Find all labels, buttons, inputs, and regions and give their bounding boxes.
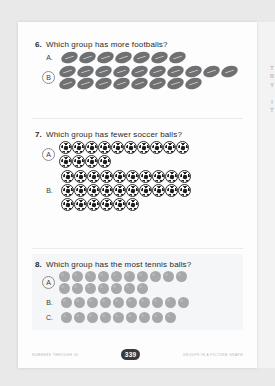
soccer-ball-icon [87,198,100,211]
tennis-ball-icon [87,312,98,323]
tennis-ball-icon [113,297,124,308]
soccer-ball-icon [137,141,150,154]
soccer-ball-icon [126,170,139,183]
soccer-ball-icon [113,170,126,183]
tennis-ball-icon [165,312,176,323]
answer-choice-b[interactable]: B [18,66,257,89]
soccer-ball-icon [98,141,111,154]
tennis-ball-icon [165,297,176,308]
tennis-ball-icon [74,312,85,323]
answer-choice-b[interactable]: B. [18,170,257,211]
object-rows [61,297,189,308]
soccer-ball-icon [85,141,98,154]
football-icon [130,76,150,92]
football-icon [78,50,98,66]
object-rows [61,312,176,323]
object-row [61,184,191,197]
football-icon [202,64,222,80]
answer-label[interactable]: B. [42,184,57,197]
object-rows [61,52,186,63]
object-rows [61,170,191,211]
question-text: Which group has more footballs? [46,40,168,49]
object-row [59,283,187,294]
soccer-ball-icon [126,184,139,197]
tennis-ball-icon [137,271,148,282]
question-number: 6. [35,40,46,49]
answer-choice-a[interactable]: A. [18,51,257,64]
object-row [61,52,186,63]
soccer-ball-icon [178,170,191,183]
object-row [61,297,189,308]
section-divider [32,248,243,249]
answer-choice-a[interactable]: A [18,271,257,294]
tennis-ball-icon [111,283,122,294]
soccer-ball-icon [152,170,165,183]
soccer-ball-icon [152,184,165,197]
tennis-ball-icon [98,271,109,282]
soccer-ball-icon [150,141,163,154]
object-row [59,141,189,154]
answer-label[interactable]: A. [42,51,57,64]
answer-label[interactable]: C. [42,311,57,324]
tennis-ball-icon [124,283,135,294]
question-number: 7. [35,130,46,139]
soccer-ball-icon [61,184,74,197]
soccer-ball-icon [113,198,126,211]
soccer-ball-icon [124,141,137,154]
object-rows [59,141,189,168]
football-icon [60,50,80,66]
answer-choice-a[interactable]: A [18,141,257,168]
answer-label[interactable]: B. [42,296,57,309]
tennis-ball-icon [74,297,85,308]
football-icon [132,50,152,66]
object-row [61,198,191,211]
question-number: 8. [35,260,46,269]
soccer-ball-icon [98,155,111,168]
footer-left-text: NUMBERS THROUGH 20 [32,353,78,357]
tennis-ball-icon [152,312,163,323]
selected-answer-label[interactable]: B [42,71,55,84]
footer-right-text: GROUPS IN A PICTURE GRAPH [183,353,243,357]
soccer-ball-icon [87,170,100,183]
section-divider [32,118,243,119]
tennis-ball-icon [59,283,70,294]
object-rows [59,271,187,294]
tennis-ball-icon [85,271,96,282]
try-it-label: TRY IT [257,30,275,150]
tennis-ball-icon [137,283,148,294]
page-footer: NUMBERS THROUGH 20 339 GROUPS IN A PICTU… [18,349,257,360]
answer-choice-c[interactable]: C. [18,311,257,324]
football-icon [168,50,188,66]
tennis-ball-icon [113,312,124,323]
soccer-ball-icon [72,141,85,154]
selected-answer-label[interactable]: A [42,276,55,289]
tennis-ball-icon [87,297,98,308]
football-icon [114,50,134,66]
tennis-ball-icon [61,297,72,308]
tennis-ball-icon [163,271,174,282]
tennis-ball-icon [100,312,111,323]
football-icon [94,76,114,92]
question-heading: 6.Which group has more footballs? [18,40,257,49]
soccer-ball-icon [100,170,113,183]
question-8-block: 8.Which group has the most tennis balls?… [18,260,257,324]
object-rows [59,66,238,89]
football-icon [150,50,170,66]
tennis-ball-icon [152,297,163,308]
soccer-ball-icon [176,141,189,154]
football-icon [96,50,116,66]
soccer-ball-icon [139,170,152,183]
object-row [59,66,238,77]
object-row [61,312,176,323]
soccer-ball-icon [100,184,113,197]
tennis-ball-icon [124,271,135,282]
tennis-ball-icon [139,312,150,323]
tennis-ball-icon [59,271,70,282]
football-icon [184,76,204,92]
soccer-ball-icon [61,198,74,211]
object-row [61,170,191,183]
tennis-ball-icon [85,283,96,294]
selected-answer-label[interactable]: A [42,148,55,161]
soccer-ball-icon [111,141,124,154]
answer-choice-b[interactable]: B. [18,296,257,309]
